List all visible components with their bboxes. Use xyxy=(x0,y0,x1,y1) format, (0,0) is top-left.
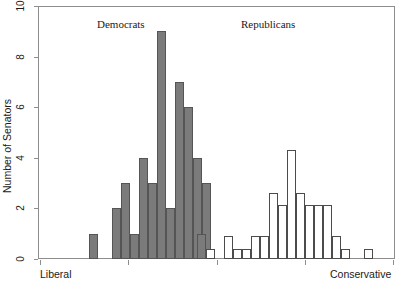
y-tick-label: 4 xyxy=(15,151,27,165)
x-tick-mark xyxy=(305,260,306,265)
x-axis-right-label: Conservative xyxy=(330,268,391,280)
histogram-bar xyxy=(184,107,193,259)
y-axis-title: Number of Senators xyxy=(0,0,14,292)
histogram-bar xyxy=(296,193,305,259)
y-tick-label: 2 xyxy=(15,201,27,215)
histogram-bar xyxy=(314,205,323,259)
x-tick-mark xyxy=(128,260,129,265)
histogram-bar xyxy=(269,193,278,259)
republicans-annotation: Republicans xyxy=(241,18,295,30)
plot-area xyxy=(38,6,395,259)
x-tick-mark xyxy=(217,260,218,265)
histogram-bar xyxy=(278,205,287,259)
histogram-bar xyxy=(260,236,269,259)
histogram-bar xyxy=(166,208,175,259)
democrats-annotation: Democrats xyxy=(97,18,145,30)
histogram-bar xyxy=(121,183,130,259)
x-axis-left-label: Liberal xyxy=(40,268,72,280)
histogram-bar xyxy=(148,183,157,259)
histogram-bar xyxy=(305,205,314,259)
histogram-bar xyxy=(364,249,373,259)
histogram-bar xyxy=(89,234,98,259)
histogram-bar xyxy=(323,205,332,259)
y-tick-label: 10 xyxy=(15,0,27,13)
histogram-bar xyxy=(287,150,296,259)
histogram-bar xyxy=(130,234,139,259)
histogram-bar xyxy=(224,236,233,259)
y-tick-label: 6 xyxy=(15,100,27,114)
histogram-bar xyxy=(233,249,242,259)
y-tick-label: 0 xyxy=(15,252,27,266)
histogram-bar xyxy=(341,249,350,259)
histogram-bar xyxy=(206,249,215,259)
histogram-bar xyxy=(332,236,341,259)
histogram-bar xyxy=(139,158,148,259)
histogram-bar xyxy=(175,82,184,259)
histogram-bar xyxy=(197,234,206,259)
histogram-bar xyxy=(157,31,166,259)
y-tick-label: 8 xyxy=(15,50,27,64)
histogram-bar xyxy=(251,236,260,259)
x-tick-mark xyxy=(40,260,41,265)
x-tick-mark xyxy=(393,260,394,265)
histogram-figure: Number of Senators 0246810 Democrats Rep… xyxy=(0,0,403,292)
histogram-bar xyxy=(242,249,251,259)
histogram-bar xyxy=(112,208,121,259)
y-tick-mark xyxy=(34,259,38,260)
